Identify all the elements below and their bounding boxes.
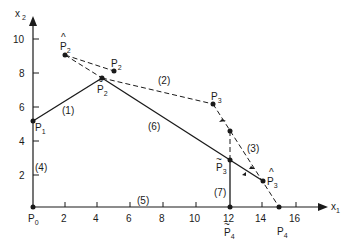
feasible-region-diagram: 2 4 6 8 10 12 14 16 2 4 6 8 10 x1 x2 [0,0,341,248]
y-ticks [33,39,39,175]
segment-p3tilde-p3hat [230,160,263,181]
dash-p2hat-p2 [65,55,114,71]
constraint-label-3: (3) [247,143,259,154]
y-tick-label: 8 [19,68,25,79]
point-p2 [112,69,117,74]
x-tick-label: 2 [61,213,67,224]
point-intersection [228,129,233,134]
constraint-label-6: (6) [148,121,160,132]
point-p3-tilde [228,158,233,163]
x-tick-label: 6 [126,213,132,224]
label-p0: P0 [28,213,39,226]
dash-p2hat-p2tilde [65,55,102,78]
y-axis-label: x2 [15,8,26,21]
x-axis-arrow-icon [318,203,328,211]
label-p4-tilde: P4 [224,227,235,240]
x-tick-label: 14 [255,213,267,224]
label-p4: P4 [277,226,288,239]
label-p2-hat: P2 [60,41,71,54]
x-tick-label: 16 [289,213,301,224]
arrow-icon [242,172,246,176]
constraint-label-1: (1) [62,105,74,116]
constraint-label-5: (5) [137,195,149,206]
label-p3-hat: P3 [267,176,278,189]
label-p1: P1 [35,122,46,135]
point-p3-hat [261,179,266,184]
y-tick-label: 2 [19,170,25,181]
y-tick-label: 6 [19,102,25,113]
constraint-label-2: (2) [158,75,170,86]
constraint-label-4: (4) [35,162,47,173]
y-tick-label: 4 [19,136,25,147]
y-tick-label: 10 [13,34,25,45]
x-ticks [65,202,296,207]
point-p0 [31,205,36,210]
x-tick-label: 10 [189,213,201,224]
label-p2-tilde: P2 [97,84,108,97]
point-p3 [211,102,216,107]
solid-boundary [33,78,263,207]
point-p4-tilde [228,205,233,210]
x-axis-label: x1 [331,201,340,214]
axes [33,24,318,207]
y-axis-arrow-icon [29,16,37,26]
x-tick-label: 8 [159,213,165,224]
x-tick-label: 4 [93,213,99,224]
arrow-icon [219,119,226,122]
constraint-label-7: (7) [214,187,226,198]
point-p4 [277,205,282,210]
label-p3-tilde: P3 [216,162,227,175]
